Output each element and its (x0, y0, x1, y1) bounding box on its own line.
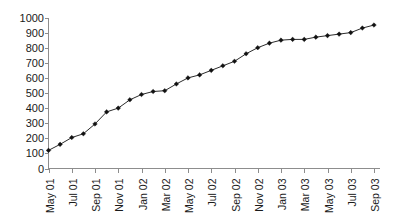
y-axis-tick-label: 400 (26, 102, 44, 114)
y-axis-tick-marks (45, 19, 49, 170)
data-point-marker (348, 30, 353, 35)
data-point-marker (69, 135, 74, 140)
x-axis-tick-label: Nov 02 (253, 178, 265, 211)
y-axis-tick-labels: 01002003004005006007008009001000 (20, 12, 44, 175)
data-point-marker (372, 23, 377, 28)
x-axis-tick-label: May 03 (323, 178, 335, 213)
data-point-marker (186, 76, 191, 81)
data-point-marker (197, 73, 202, 78)
y-axis-tick-label: 200 (26, 132, 44, 144)
data-point-marker (162, 88, 167, 93)
x-axis-tick-marks (50, 169, 375, 173)
x-axis-tick-label: Jul 03 (346, 178, 358, 206)
series-markers-1 (46, 23, 376, 153)
x-axis-tick-label: Jul 02 (206, 178, 218, 206)
data-point-marker (360, 26, 365, 31)
data-point-marker (209, 68, 214, 73)
x-axis-tick-label: Sep 03 (369, 178, 381, 211)
y-axis-tick-label: 500 (26, 87, 44, 99)
x-axis-tick-label: May 02 (183, 178, 195, 213)
data-point-marker (290, 37, 295, 42)
y-axis-tick-label: 0 (38, 163, 44, 175)
x-axis-tick-label: Mar 02 (160, 178, 172, 211)
x-axis-tick-label: May 01 (44, 178, 56, 213)
x-axis-tick-label: Mar 03 (299, 178, 311, 211)
data-point-marker (325, 33, 330, 38)
x-axis-tick-labels: May 01Jul 01Sep 01Nov 01Jan 02Mar 02May … (44, 178, 381, 213)
x-axis-tick-label: Sep 02 (230, 178, 242, 211)
data-point-marker (221, 64, 226, 69)
data-point-marker (314, 35, 319, 40)
data-point-marker (174, 82, 179, 87)
data-point-marker (46, 148, 51, 153)
data-point-marker (58, 142, 63, 147)
y-axis-tick-label: 300 (26, 117, 44, 129)
y-axis-tick-label: 600 (26, 72, 44, 84)
x-axis-tick-label: Jan 03 (276, 178, 288, 210)
data-point-marker (302, 37, 307, 42)
data-point-marker (255, 45, 260, 50)
x-axis-tick-label: Jul 01 (67, 178, 79, 206)
x-axis-tick-label: Sep 01 (90, 178, 102, 211)
data-point-marker (267, 41, 272, 46)
line-chart: 01002003004005006007008009001000 May 01J… (0, 0, 400, 223)
series-line-1 (49, 25, 375, 150)
chart-canvas: 01002003004005006007008009001000 May 01J… (0, 0, 400, 223)
data-point-marker (151, 89, 156, 94)
y-axis-tick-label: 1000 (20, 12, 44, 24)
y-axis-tick-label: 800 (26, 42, 44, 54)
y-axis-tick-label: 900 (26, 27, 44, 39)
data-point-marker (279, 38, 284, 43)
x-axis-tick-label: Nov 01 (113, 178, 125, 211)
y-axis-tick-label: 700 (26, 57, 44, 69)
y-axis-tick-label: 100 (26, 147, 44, 159)
x-axis-tick-label: Jan 02 (137, 178, 149, 210)
data-point-marker (139, 92, 144, 97)
data-point-marker (337, 32, 342, 37)
